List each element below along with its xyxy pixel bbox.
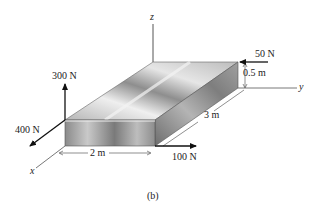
x-axis: [36, 146, 65, 168]
force-300n-label: 300 N: [52, 71, 77, 81]
box-diagram-svg: [0, 0, 309, 210]
force-100n-label: 100 N: [172, 152, 197, 162]
diagram-figure: z y x 300 N 400 N 100 N 50 N 2 m 3 m 0.5…: [0, 0, 309, 210]
force-400n-label: 400 N: [15, 125, 40, 135]
box-front-face: [65, 120, 155, 146]
dimension-2m-label: 2 m: [90, 148, 105, 158]
dimension-3m-label: 3 m: [204, 110, 219, 120]
dimension-0-5m-label: 0.5 m: [243, 68, 266, 78]
z-axis-label: z: [150, 12, 154, 22]
y-axis-label: y: [299, 82, 303, 92]
figure-caption: (b): [147, 191, 159, 201]
x-axis-label: x: [30, 166, 34, 176]
force-50n-label: 50 N: [255, 49, 275, 59]
